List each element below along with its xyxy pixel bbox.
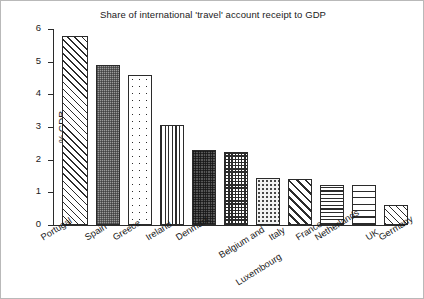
y-tick-label-0: 0 <box>36 218 41 229</box>
y-tick-2: 2 <box>48 160 53 161</box>
y-axis-line <box>53 29 54 226</box>
bar-spain <box>96 65 120 225</box>
y-tick-label-2: 2 <box>36 153 41 164</box>
cat-text: Italy <box>267 225 287 243</box>
y-tick-1: 1 <box>48 192 53 193</box>
plot-area: % GDR 0 1 2 3 4 5 6 <box>53 29 408 226</box>
y-tick-5: 5 <box>48 62 53 63</box>
cat-text-line1: Belgium and <box>217 224 266 260</box>
y-tick-4: 4 <box>48 94 53 95</box>
y-tick-label-6: 6 <box>36 22 41 33</box>
bar-portugal <box>62 36 88 225</box>
y-tick-label-4: 4 <box>36 87 41 98</box>
chart-title: Share of international 'travel' account … <box>1 9 424 20</box>
bar-greece <box>128 75 152 225</box>
y-tick-label-5: 5 <box>36 55 41 66</box>
y-tick-label-1: 1 <box>36 185 41 196</box>
cat-label-italy: Italy <box>267 225 287 243</box>
bar-italy <box>256 178 280 225</box>
y-tick-3: 3 <box>48 127 53 128</box>
bar-ireland <box>160 125 184 225</box>
cat-text-line2: Luxembourg <box>234 251 283 287</box>
bar-chart-figure: Share of international 'travel' account … <box>0 0 424 299</box>
y-tick-label-3: 3 <box>36 120 41 131</box>
bar-france <box>288 179 312 225</box>
y-tick-6: 6 <box>48 29 53 30</box>
